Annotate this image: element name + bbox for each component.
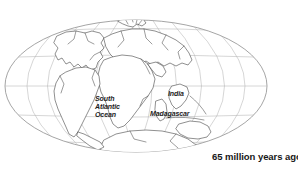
caption-right-time: 65 million years ago [212, 151, 298, 162]
label-south-atlantic-line1: South [95, 95, 120, 103]
label-south-atlantic-line2: Atlantic [95, 103, 120, 111]
world-map-svg [0, 0, 298, 174]
label-india: India [168, 90, 184, 98]
label-south-atlantic-line3: Ocean [95, 111, 120, 119]
label-madagascar: Madagascar [150, 110, 189, 118]
label-south-atlantic-ocean: South Atlantic Ocean [95, 95, 120, 120]
paleogeographic-figure: South Atlantic Ocean India Madagascar go… [0, 0, 298, 174]
